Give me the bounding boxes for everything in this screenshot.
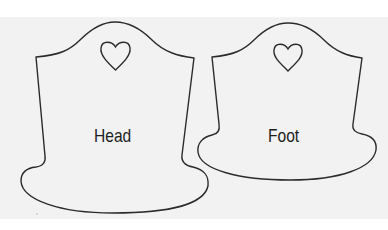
foot-pattern-piece [198, 23, 376, 180]
paper-speck [36, 213, 38, 215]
pattern-template-illustration [0, 0, 388, 230]
foot-label: Foot [268, 126, 299, 145]
head-label: Head [94, 126, 131, 145]
head-outline [21, 22, 208, 213]
head-pattern-piece [21, 22, 208, 213]
